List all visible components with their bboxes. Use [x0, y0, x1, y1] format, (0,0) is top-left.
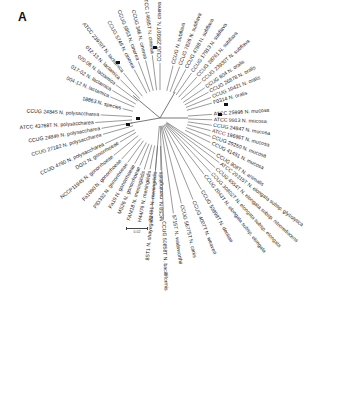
leaf-branch	[188, 122, 212, 125]
clade-marker	[224, 103, 228, 106]
leaf-branch	[95, 120, 132, 123]
scale-bar: 0.02	[126, 228, 148, 234]
leaf-branch	[146, 60, 154, 90]
leaf-branch	[187, 125, 211, 131]
leaf-branch	[167, 122, 216, 154]
leaf-branch	[135, 142, 147, 163]
leaf-branch	[186, 128, 210, 137]
leaf-branch	[188, 114, 212, 116]
leaf-label: 9715T N. wadsworthii	[171, 214, 184, 264]
leaf-label: 18863 N. species	[82, 95, 123, 111]
internal-branch	[133, 96, 160, 118]
internal-branch	[130, 118, 160, 123]
clade-marker	[136, 117, 140, 120]
leaf-branch	[140, 144, 149, 166]
leaf: CCUG 23930T N. cinerea	[156, 2, 162, 90]
panel-label: A	[18, 10, 27, 24]
internal-branch	[160, 92, 175, 118]
clade-marker	[153, 46, 157, 49]
leaf-label: CCUG 23930T N. cinerea	[156, 2, 162, 61]
leaf-branch	[187, 103, 212, 110]
scale-bar-line	[126, 228, 148, 229]
scale-bar-label: 0.02	[126, 230, 148, 234]
leaf-branch	[138, 62, 150, 92]
clade-marker	[126, 123, 130, 126]
leaf-branch	[188, 119, 212, 120]
leaf-branch	[101, 115, 132, 117]
leaf-branch	[185, 130, 210, 142]
leaf-label: 8ST1 N. shayeganii	[144, 215, 154, 261]
clade-marker	[218, 113, 222, 116]
leaf-label: CCUG 50858T N. bacilliformis	[161, 221, 169, 291]
leaf: ATCC 25996 N. mucosa	[188, 107, 270, 117]
leaf-branch	[120, 132, 136, 142]
leaf-label: CCUG 24845 N. polysaccharea	[26, 107, 99, 117]
leaf-branch	[123, 109, 133, 112]
clade-marker	[116, 61, 120, 64]
tree-canvas: CCUG 24846 N. polysacchareaATCC 43768T N…	[0, 0, 364, 402]
phylogenetic-tree-figure: A CCUG 24846 N. polysacchareaATCC 43768T…	[0, 0, 364, 402]
leaf-branch	[170, 67, 180, 92]
leaf-branch	[134, 69, 147, 93]
leaf-branch	[105, 130, 134, 144]
